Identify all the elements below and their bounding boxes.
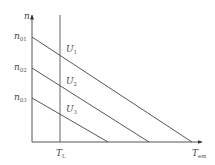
voltage-label-u2: U2 xyxy=(66,76,77,87)
characteristic-line-u2 xyxy=(32,68,149,142)
no-load-speed-label-03: n03 xyxy=(14,92,27,103)
diagram-labels: U1n01U2n02U3n03 xyxy=(14,31,78,115)
motor-characteristic-diagram: U1n01U2n02U3n03 n Tem TL xyxy=(0,0,215,165)
voltage-label-u1: U1 xyxy=(66,44,77,55)
no-load-speed-label-02: n02 xyxy=(14,62,27,73)
characteristic-lines xyxy=(32,37,192,142)
characteristic-line-u1 xyxy=(32,37,192,142)
y-axis-label: n xyxy=(24,11,30,21)
x-axis-label: Tem xyxy=(192,148,207,159)
no-load-speed-label-01: n01 xyxy=(14,31,27,42)
voltage-label-u3: U3 xyxy=(66,104,78,115)
load-torque-label: TL xyxy=(56,148,66,159)
